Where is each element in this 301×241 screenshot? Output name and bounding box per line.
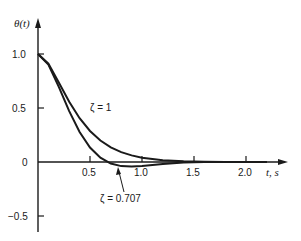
step-response-chart: 1.0 0.5 0 −0.5 0.5 1.0 1.5 2.0 θ(t) t, s… [0, 0, 301, 241]
y-tick-0: 0 [22, 157, 28, 168]
x-tick-1.0: 1.0 [134, 167, 148, 178]
y-axis-label: θ(t) [14, 17, 30, 30]
annotation-zeta-1: ζ = 1 [90, 102, 112, 114]
annotation-arrow-icon [116, 167, 121, 175]
x-tick-0.5: 0.5 [82, 167, 96, 178]
annotation-zeta-0707: ζ = 0.707 [100, 193, 141, 205]
y-tick-1.0: 1.0 [12, 49, 26, 60]
y-axis [35, 18, 44, 232]
x-tick-2.0: 2.0 [238, 167, 252, 178]
x-axis-label: t, s [266, 166, 279, 178]
curve-zeta-0707 [38, 54, 267, 167]
y-tick-0.5: 0.5 [12, 103, 26, 114]
curve-zeta-1 [38, 54, 267, 162]
y-axis-arrow-icon [35, 18, 41, 28]
y-tick-neg0.5: −0.5 [8, 211, 28, 222]
annotation-arrow-line [119, 172, 124, 192]
x-axis-arrow-icon [278, 159, 288, 165]
x-tick-1.5: 1.5 [186, 167, 200, 178]
